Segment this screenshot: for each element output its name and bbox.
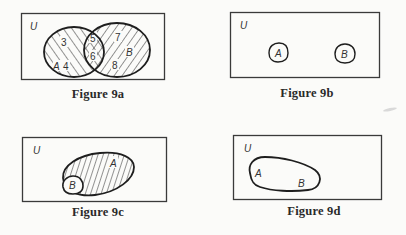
region-number-7: 7 [115, 32, 121, 43]
set-b-label: B [126, 47, 133, 58]
figure-9d: U A B Figure 9d [200, 115, 406, 235]
figure-9a: U 3 A 4 5 6 7 8 B Fig [0, 0, 200, 115]
figure-caption-9a: Figure 9a [58, 87, 138, 102]
set-a-label: A [109, 158, 117, 169]
figure-caption-9b: Figure 9b [267, 86, 347, 101]
region-number-5: 5 [90, 33, 96, 44]
set-a-label: A [52, 61, 60, 72]
universe-label: U [240, 20, 248, 31]
figure-caption-9c: Figure 9c [58, 205, 138, 220]
set-b-label: B [298, 178, 305, 189]
set-a-label: A [254, 168, 262, 179]
universe-box [231, 13, 380, 78]
region-number-3: 3 [61, 37, 67, 48]
region-number-4: 4 [63, 61, 69, 72]
set-b-label: B [341, 49, 348, 60]
set-a-label: A [274, 48, 282, 59]
region-number-6: 6 [90, 51, 96, 62]
set-b-label: B [69, 180, 76, 191]
universe-label: U [30, 21, 38, 32]
figure-9c: U A B Figure 9c [0, 115, 200, 235]
figure-9b: U A B Figure 9b [200, 0, 406, 115]
universe-label: U [244, 143, 252, 154]
region-number-8: 8 [112, 60, 118, 71]
universe-label: U [33, 145, 41, 156]
figure-caption-9d: Figure 9d [274, 204, 354, 219]
